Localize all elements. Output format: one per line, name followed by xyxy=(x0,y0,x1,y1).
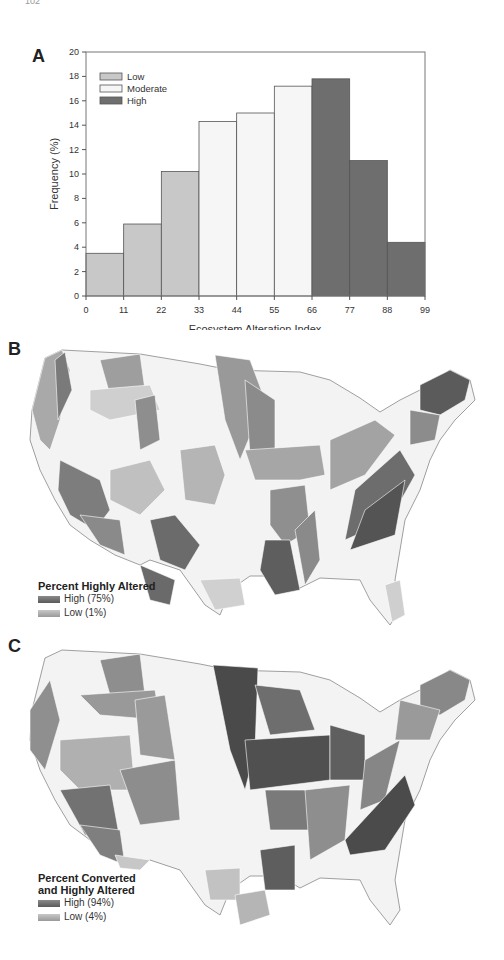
y-tick-label: 18 xyxy=(69,71,79,81)
x-axis-ticks: 0112233445566778899 xyxy=(83,296,430,315)
map-c-legend: Percent Converted and Highly Altered Hig… xyxy=(38,872,136,924)
y-tick-label: 4 xyxy=(74,242,79,252)
histogram-bar xyxy=(312,79,350,296)
y-tick-label: 8 xyxy=(74,193,79,203)
histogram-bar xyxy=(86,253,124,296)
histogram-bars xyxy=(86,79,425,296)
y-tick-label: 0 xyxy=(74,291,79,301)
x-tick-label: 33 xyxy=(194,305,204,315)
legend-swatch-low xyxy=(38,610,60,617)
x-tick-label: 22 xyxy=(156,305,166,315)
x-tick-label: 11 xyxy=(119,305,128,315)
histogram-bar xyxy=(237,113,275,296)
histogram-bar xyxy=(124,224,162,296)
legend-swatch xyxy=(100,73,122,80)
legend-item-low: Low (1%) xyxy=(38,606,156,620)
legend-label: Low xyxy=(127,71,145,82)
legend-item-high: High (75%) xyxy=(38,592,156,606)
y-tick-label: 14 xyxy=(69,120,79,130)
legend-swatch-high xyxy=(38,596,60,603)
chart-legend: LowModerateHigh xyxy=(100,71,167,106)
y-tick-label: 6 xyxy=(74,218,79,228)
histogram-chart: 02468101214161820 0112233445566778899 Fr… xyxy=(0,0,504,330)
legend-swatch-high xyxy=(38,900,60,907)
legend-swatch-low xyxy=(38,914,60,921)
legend-item-low: Low (4%) xyxy=(38,910,136,924)
legend-swatch xyxy=(100,97,122,104)
y-tick-label: 2 xyxy=(74,267,79,277)
y-tick-label: 12 xyxy=(69,145,79,155)
x-tick-label: 44 xyxy=(232,305,242,315)
x-tick-label: 77 xyxy=(345,305,355,315)
histogram-bar xyxy=(350,161,388,296)
x-axis-label: Ecosystem Alteration Index xyxy=(189,323,322,330)
legend-label: Moderate xyxy=(127,83,167,94)
y-axis-ticks: 02468101214161820 xyxy=(69,47,86,301)
x-tick-label: 66 xyxy=(307,305,317,315)
legend-label: High xyxy=(127,95,147,106)
y-tick-label: 16 xyxy=(69,96,79,106)
histogram-bar xyxy=(199,122,237,296)
map-b-legend: Percent Highly Altered High (75%) Low (1… xyxy=(38,580,156,620)
x-tick-label: 0 xyxy=(83,305,88,315)
y-axis-label: Frequency (%) xyxy=(48,138,60,210)
map-c-legend-title-line1: Percent Converted xyxy=(38,872,136,884)
histogram-bar xyxy=(387,242,425,296)
map-c-legend-title-line2: and Highly Altered xyxy=(38,884,136,896)
x-tick-label: 88 xyxy=(382,305,392,315)
legend-item-high: High (94%) xyxy=(38,896,136,910)
legend-swatch xyxy=(100,85,122,92)
histogram-bar xyxy=(274,86,312,296)
map-b-legend-title: Percent Highly Altered xyxy=(38,580,156,592)
x-tick-label: 55 xyxy=(269,305,279,315)
y-tick-label: 10 xyxy=(69,169,79,179)
y-tick-label: 20 xyxy=(69,47,79,57)
histogram-bar xyxy=(161,172,199,296)
x-tick-label: 99 xyxy=(420,305,430,315)
